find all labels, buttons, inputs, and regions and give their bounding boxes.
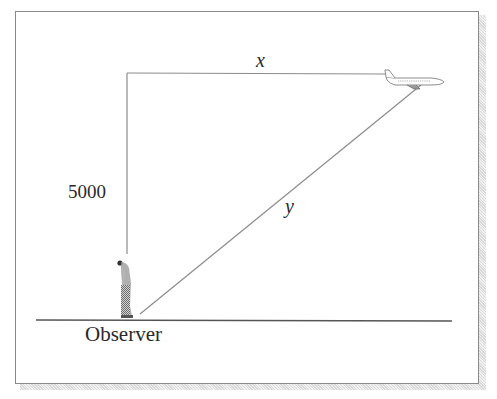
ground-line — [36, 320, 452, 321]
airplane-icon — [385, 70, 444, 89]
line-of-sight — [140, 85, 421, 314]
horizontal-distance-label: x — [256, 50, 265, 70]
horizontal-distance-line — [127, 73, 386, 74]
observer-label: Observer — [85, 324, 162, 345]
person-icon — [117, 260, 133, 318]
height-label: 5000 — [68, 182, 106, 201]
line-of-sight-label: y — [285, 196, 294, 216]
